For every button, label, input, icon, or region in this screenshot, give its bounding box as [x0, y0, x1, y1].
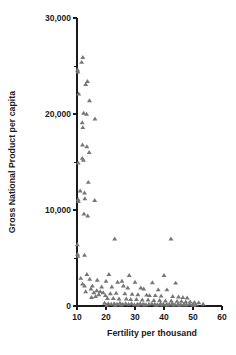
x-tick-label: 50 [188, 312, 198, 322]
y-tick-label: 20,000 [45, 109, 71, 119]
x-tick-label: 10 [72, 312, 82, 322]
x-tick-label: 60 [217, 312, 227, 322]
x-axis-title: Fertility per thousand [107, 328, 197, 338]
scatter-plot: 010,00020,00030,000 102030405060 Fertili… [0, 0, 236, 355]
chart-figure: 010,00020,00030,000 102030405060 Fertili… [0, 0, 236, 355]
y-tick-label: 0 [66, 301, 71, 311]
y-tick-label: 10,000 [45, 205, 71, 215]
chart-background [0, 0, 236, 355]
y-axis-title: Gross National Product per capita [7, 91, 17, 233]
x-tick-label: 40 [159, 312, 169, 322]
y-tick-label: 30,000 [45, 13, 71, 23]
x-tick-label: 30 [130, 312, 140, 322]
x-tick-label: 20 [101, 312, 111, 322]
